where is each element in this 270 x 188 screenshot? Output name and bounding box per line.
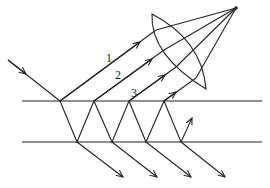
internal-ray-arrow: [181, 118, 192, 142]
reflected-ray-2: [94, 50, 164, 101]
reflected-ray-4: [164, 78, 196, 101]
converging-lens: [152, 14, 206, 89]
ray-label-2: 2: [115, 68, 121, 82]
transmitted-ray-4: [181, 142, 225, 177]
ray-label-1: 1: [106, 51, 112, 65]
interference-diagram: 1 2 3: [0, 0, 270, 188]
ray-label-3: 3: [131, 86, 137, 100]
transmitted-ray-1: [77, 142, 123, 177]
transmitted-ray-2: [112, 142, 157, 177]
incident-ray: [8, 60, 60, 101]
internal-reflections: [60, 101, 181, 142]
transmitted-ray-3: [146, 142, 191, 177]
focused-ray-1: [156, 8, 236, 30]
focal-point: [234, 6, 238, 10]
